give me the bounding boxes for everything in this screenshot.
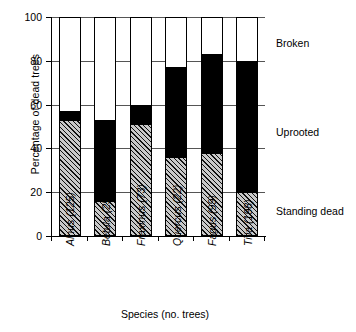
series-label-uprooted: Uprooted <box>276 126 319 138</box>
gridline-40 <box>52 148 265 149</box>
x-category-label-fraxinus: Fraxinus (73) <box>135 184 147 246</box>
bar-segment-uprooted <box>59 111 81 120</box>
x-tick-mark-4 <box>193 236 194 241</box>
bar-segment-broken <box>236 17 258 61</box>
bar-segment-broken <box>130 17 152 105</box>
stacked-bar-chart: Percentage of dead trees 100 80 60 40 20… <box>0 0 356 332</box>
gridline-20 <box>52 192 265 193</box>
gridline-60 <box>52 105 265 106</box>
x-category-label-betula: Betula (255) <box>100 189 112 246</box>
y-tick-label-20: 20 <box>10 186 42 198</box>
bar-segment-uprooted <box>201 54 223 153</box>
bar-segment-uprooted <box>165 67 187 157</box>
y-tick-mark-60 <box>46 105 51 106</box>
bar-segment-uprooted <box>130 105 152 125</box>
y-tick-mark-100 <box>46 17 51 18</box>
x-tick-mark-2 <box>122 236 123 241</box>
y-axis-line <box>51 17 52 237</box>
y-tick-label-60: 60 <box>10 99 42 111</box>
bar-segment-uprooted <box>236 61 258 192</box>
x-tick-mark-1 <box>87 236 88 241</box>
gridline-80 <box>52 61 265 62</box>
y-tick-mark-20 <box>46 192 51 193</box>
x-tick-mark-3 <box>158 236 159 241</box>
y-tick-mark-40 <box>46 148 51 149</box>
x-category-label-quercus: Quercus (22) <box>171 185 183 246</box>
x-tick-mark-0 <box>51 236 52 241</box>
x-axis-line <box>51 236 266 237</box>
y-axis-title: Percentage of dead trees <box>29 19 41 209</box>
y-tick-mark-80 <box>46 61 51 62</box>
x-tick-mark-5 <box>229 236 230 241</box>
series-label-broken: Broken <box>276 37 309 49</box>
series-label-standing-dead: Standing dead <box>276 205 344 217</box>
y-tick-label-80: 80 <box>10 55 42 67</box>
bar-segment-broken <box>165 17 187 67</box>
bar-segment-broken <box>201 17 223 54</box>
plot-area <box>52 17 265 236</box>
y-tick-label-100: 100 <box>10 11 42 23</box>
x-axis-title: Species (no. trees) <box>0 308 330 320</box>
x-category-label-tilia: Tilia (198) <box>242 199 254 246</box>
bar-segment-broken <box>59 17 81 111</box>
y-tick-label-40: 40 <box>10 142 42 154</box>
x-category-label-fagus: Fagus (99) <box>206 195 218 246</box>
bar-segment-broken <box>94 17 116 120</box>
x-category-label-alnus: Alnus (125) <box>64 192 76 246</box>
y-tick-label-0: 0 <box>10 230 42 242</box>
x-tick-mark-6 <box>264 236 265 241</box>
gridline-100 <box>52 17 265 18</box>
